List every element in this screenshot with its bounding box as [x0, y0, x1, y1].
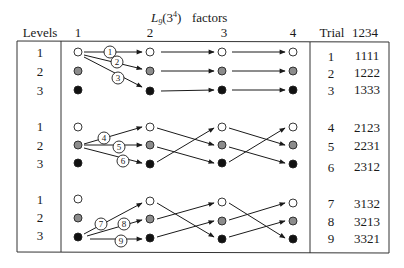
trial-group-3 [84, 203, 285, 239]
trial-number: 2 [328, 66, 335, 81]
trial-number: 3 [328, 83, 335, 98]
trial-header: Trial [320, 25, 345, 40]
trial-number: 9 [328, 231, 335, 246]
trial-number: 8 [328, 214, 335, 229]
trial-code: 2123 [354, 120, 380, 135]
code-header: 1234 [352, 25, 379, 40]
svg-text:1: 1 [37, 119, 44, 134]
trial-number: 6 [328, 160, 335, 175]
trial-number: 1 [328, 49, 335, 64]
svg-text:2: 2 [115, 57, 120, 67]
svg-text:2: 2 [37, 138, 44, 153]
svg-text:2: 2 [37, 210, 44, 225]
svg-text:1: 1 [37, 45, 44, 60]
orthogonal-array-diagram: L9(34) factors Levels 1 2 3 4 Trial 1234… [0, 0, 404, 268]
trial-markers-group-2: 4 5 6 [98, 132, 129, 167]
factor-header-4: 4 [290, 25, 297, 40]
svg-text:2: 2 [37, 64, 44, 79]
trial-number: 4 [328, 120, 335, 135]
svg-text:3: 3 [37, 156, 44, 171]
svg-text:8: 8 [122, 219, 127, 229]
factor-header-3: 3 [221, 25, 228, 40]
trial-number: 5 [328, 139, 335, 154]
trial-code: 1111 [355, 48, 380, 63]
svg-text:7: 7 [99, 219, 104, 229]
svg-text:L9(34): L9(34) [150, 10, 181, 27]
svg-text:4: 4 [102, 133, 107, 143]
svg-text:3: 3 [37, 83, 44, 98]
array-title: L9(34) factors [150, 10, 227, 27]
trial-number: 7 [328, 196, 335, 211]
trial-table: 1 1111 2 1222 3 1333 4 2123 5 2231 6 231… [328, 48, 380, 246]
levels-header: Levels [23, 25, 58, 40]
trial-code: 1222 [354, 65, 380, 80]
trial-code: 3132 [354, 196, 380, 211]
factor-header-2: 2 [147, 25, 154, 40]
factor-header-1: 1 [75, 25, 82, 40]
svg-text:1: 1 [37, 192, 44, 207]
trial-code: 2312 [354, 159, 380, 174]
svg-text:5: 5 [117, 142, 122, 152]
svg-text:1: 1 [108, 47, 113, 57]
factors-caption: factors [192, 10, 227, 25]
trial-code: 1333 [354, 82, 380, 97]
trial-code: 3213 [354, 214, 380, 229]
levels-column: 1 2 3 1 2 3 1 2 3 [37, 45, 44, 243]
svg-text:6: 6 [121, 156, 126, 166]
trial-code: 2231 [354, 138, 380, 153]
svg-text:3: 3 [37, 228, 44, 243]
trial-code: 3321 [354, 231, 380, 246]
svg-text:3: 3 [116, 73, 121, 83]
svg-text:9: 9 [119, 236, 124, 246]
